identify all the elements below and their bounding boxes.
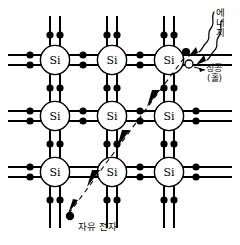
- electron-dot: [26, 173, 33, 180]
- atom-label: Si: [163, 110, 175, 123]
- electron-dot: [136, 107, 143, 114]
- label-hole: 정공 (홀): [206, 64, 222, 83]
- electron-dot: [136, 173, 143, 180]
- trajectory-end-arrowhead: [68, 199, 78, 214]
- trajectory-arrowhead: [147, 90, 160, 107]
- electron-dot: [192, 107, 199, 114]
- electron-dot: [160, 196, 167, 203]
- electron-dot: [170, 31, 177, 38]
- electron-dot: [136, 117, 143, 124]
- atom-label: Si: [106, 54, 118, 67]
- electron-dot: [103, 196, 110, 203]
- electron-dot: [26, 163, 33, 170]
- atom-label: Si: [49, 54, 61, 67]
- electron-dot: [170, 140, 177, 147]
- electron-dot: [46, 31, 53, 38]
- trajectory-arrowhead: [117, 130, 130, 147]
- atom-label: Si: [106, 166, 118, 179]
- electron-dot: [103, 84, 110, 91]
- electron-dot: [160, 31, 167, 38]
- electron-trajectory-path: [68, 58, 184, 214]
- trajectory-dashed-line: [70, 58, 184, 212]
- electron-dot: [56, 196, 63, 203]
- electron-dot: [170, 84, 177, 91]
- silicon-lattice-figure: Si Si Si Si Si Si: [0, 0, 240, 245]
- atom-label: Si: [106, 110, 118, 123]
- atom-label: Si: [163, 166, 175, 179]
- electron-dot: [136, 61, 143, 68]
- hole-leader-arrowhead: [199, 68, 205, 72]
- electron-dot: [103, 140, 110, 147]
- free-electron-dot: [66, 212, 74, 220]
- label-free-electron: 자유 전자: [78, 222, 117, 232]
- electron-dot: [26, 61, 33, 68]
- electron-dot: [170, 196, 177, 203]
- electron-dot: [79, 117, 86, 124]
- electron-dot: [113, 31, 120, 38]
- electron-dot: [103, 31, 110, 38]
- electron-dot: [26, 51, 33, 58]
- electron-dot: [56, 84, 63, 91]
- atom-label: Si: [49, 166, 61, 179]
- electron-dot: [192, 173, 199, 180]
- electron-dot: [46, 196, 53, 203]
- hole-marker: [185, 60, 193, 68]
- electron-dot: [113, 84, 120, 91]
- energy-arrowhead-2: [196, 55, 206, 65]
- label-hole-line1: 정공: [206, 63, 222, 73]
- lattice-diagram-svg: Si Si Si Si Si Si: [0, 0, 240, 245]
- electron-dot: [160, 140, 167, 147]
- atom-label: Si: [163, 54, 175, 67]
- electron-dot: [56, 140, 63, 147]
- electron-dot: [56, 31, 63, 38]
- label-hole-line2: (홀): [207, 74, 222, 84]
- electron-dot: [79, 61, 86, 68]
- electron-dot: [136, 163, 143, 170]
- electron-dot: [79, 51, 86, 58]
- electron-dot: [26, 117, 33, 124]
- electron-dot: [79, 107, 86, 114]
- electron-dot: [192, 117, 199, 124]
- electron-dot: [26, 107, 33, 114]
- excited-electron-dot: [182, 48, 190, 56]
- electron-dot: [113, 196, 120, 203]
- electron-dot: [46, 84, 53, 91]
- electron-dot: [136, 51, 143, 58]
- electron-dot: [192, 163, 199, 170]
- energy-wave-1: [199, 12, 214, 52]
- atom-label: Si: [49, 110, 61, 123]
- label-energy: 에너지: [214, 8, 224, 38]
- electron-dot: [46, 140, 53, 147]
- label-leader-lines: [194, 67, 205, 72]
